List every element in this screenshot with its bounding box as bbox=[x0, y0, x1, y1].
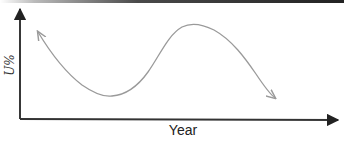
plot-area bbox=[0, 0, 344, 141]
u-percent-curve bbox=[38, 24, 275, 98]
unemployment-diagram: U% Year bbox=[0, 0, 344, 141]
y-axis-label: U% bbox=[3, 53, 17, 77]
x-axis bbox=[20, 119, 338, 120]
x-axis-label: Year bbox=[158, 122, 208, 139]
